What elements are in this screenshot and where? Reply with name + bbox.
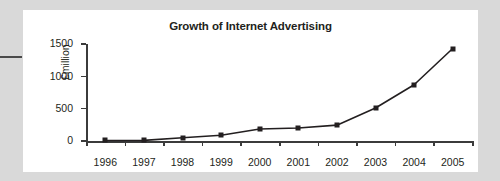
data-point-marker: [334, 123, 339, 128]
series-polyline: [105, 49, 452, 141]
x-axis-tick-label: 2001: [287, 156, 310, 168]
x-axis-tick: [395, 141, 397, 146]
x-axis-tick-label: 2002: [325, 156, 348, 168]
x-axis-tick: [433, 141, 435, 146]
series-line-chart: [86, 44, 472, 141]
data-point-marker: [180, 135, 185, 140]
chart-card: Growth of Internet Advertising £million …: [23, 10, 478, 172]
x-axis-tick: [318, 141, 320, 146]
x-axis-tick: [240, 141, 242, 146]
x-axis-tick-label: 1997: [132, 156, 155, 168]
x-axis-tick-label: 1996: [94, 156, 117, 168]
data-point-marker: [296, 126, 301, 131]
x-axis-tick: [356, 141, 358, 146]
page-margin-rule-icon: [0, 56, 22, 58]
x-axis-tick: [163, 141, 165, 146]
x-axis-tick-label: 2000: [248, 156, 271, 168]
data-point-marker: [103, 138, 108, 143]
x-axis-tick: [279, 141, 281, 146]
data-point-marker: [450, 46, 455, 51]
chart-title: Growth of Internet Advertising: [23, 20, 478, 32]
x-axis-tick-label: 2005: [441, 156, 464, 168]
y-axis-tick-label: 1500: [50, 37, 73, 49]
data-point-marker: [412, 82, 417, 87]
x-axis-tick: [125, 141, 127, 146]
data-point-marker: [141, 138, 146, 143]
figure-page: Growth of Internet Advertising £million …: [0, 0, 500, 181]
x-axis-tick-label: 1998: [171, 156, 194, 168]
data-point-marker: [219, 133, 224, 138]
x-axis-tick-label: 2004: [402, 156, 425, 168]
x-axis-tick-label: 2003: [364, 156, 387, 168]
y-axis-tick-label: 500: [55, 102, 73, 114]
data-point-marker: [373, 106, 378, 111]
y-axis-tick-label: 1000: [50, 70, 73, 82]
data-point-marker: [257, 127, 262, 132]
y-axis-tick-label: 0: [67, 134, 73, 146]
x-axis-tick-label: 1999: [209, 156, 232, 168]
x-axis-tick: [472, 141, 474, 146]
x-axis-tick: [86, 141, 88, 146]
plot-area: 050010001500 199619971998199920002001200…: [86, 44, 472, 141]
x-axis-tick: [202, 141, 204, 146]
